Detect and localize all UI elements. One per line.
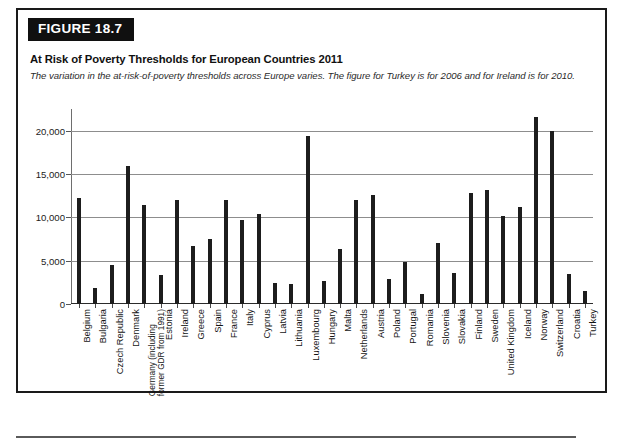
x-axis-tick-mark bbox=[291, 304, 292, 308]
bar bbox=[501, 216, 505, 304]
bar-slot bbox=[577, 109, 593, 304]
bar-slot bbox=[234, 109, 250, 304]
bar-slot bbox=[185, 109, 201, 304]
bar-slot bbox=[250, 109, 266, 304]
bar bbox=[142, 205, 146, 304]
bar-slot bbox=[299, 109, 315, 304]
x-axis-tick-mark bbox=[275, 304, 276, 308]
x-axis-tick-mark bbox=[259, 304, 260, 308]
bar bbox=[273, 283, 277, 304]
bar bbox=[534, 117, 538, 304]
x-axis-tick-label: Greece bbox=[197, 309, 207, 340]
bar-slot bbox=[87, 109, 103, 304]
bar bbox=[159, 275, 163, 304]
x-axis-tick-mark bbox=[438, 304, 439, 308]
bar-slot bbox=[120, 109, 136, 304]
bar bbox=[77, 198, 81, 304]
y-axis-tick-label: 10,000 bbox=[36, 212, 65, 223]
bar-slot bbox=[104, 109, 120, 304]
y-axis-tick-label: 5,000 bbox=[41, 255, 65, 266]
bar bbox=[289, 284, 293, 304]
bar bbox=[322, 281, 326, 304]
x-axis-tick-label: France bbox=[230, 309, 240, 338]
x-axis-tick-label: Estonia bbox=[165, 309, 175, 340]
chart-plot-wrapper: 05,00010,00015,00020,000 BelgiumBulgaria… bbox=[18, 10, 609, 395]
bar bbox=[191, 246, 195, 304]
x-axis-tick-mark bbox=[210, 304, 211, 308]
bar-slot bbox=[71, 109, 87, 304]
x-axis-tick-label: Spain bbox=[214, 309, 224, 333]
bar-slot bbox=[202, 109, 218, 304]
bar bbox=[583, 291, 587, 304]
x-axis-tick-mark bbox=[487, 304, 488, 308]
bar bbox=[257, 214, 261, 304]
bar bbox=[403, 262, 407, 304]
bar bbox=[110, 265, 114, 304]
bar-slot bbox=[560, 109, 576, 304]
bar-slot bbox=[348, 109, 364, 304]
x-axis-tick-label: Bulgaria bbox=[99, 309, 109, 343]
bar-slot bbox=[463, 109, 479, 304]
x-axis-tick-mark bbox=[356, 304, 357, 308]
x-axis-tick-mark bbox=[389, 304, 390, 308]
x-axis-tick-label: Croatia bbox=[573, 309, 583, 339]
bar bbox=[518, 207, 522, 304]
x-axis-tick-label: United Kingdom bbox=[507, 309, 517, 375]
bar bbox=[550, 131, 554, 304]
x-axis-tick-label: Luxembourg bbox=[312, 309, 322, 361]
x-axis-tick-label: Sweden bbox=[491, 309, 501, 343]
y-axis-tick-mark bbox=[66, 261, 71, 262]
x-axis-tick-label: Hungary bbox=[328, 309, 338, 344]
y-axis-tick-mark bbox=[66, 304, 71, 305]
bar bbox=[354, 200, 358, 304]
bar-slot bbox=[528, 109, 544, 304]
bar-slot bbox=[414, 109, 430, 304]
x-axis-tick-mark bbox=[454, 304, 455, 308]
x-axis-tick-mark bbox=[422, 304, 423, 308]
bar-slot bbox=[283, 109, 299, 304]
x-axis-tick-label: Netherlands bbox=[360, 309, 370, 359]
x-axis-tick-mark bbox=[471, 304, 472, 308]
bar-slot bbox=[153, 109, 169, 304]
page-bottom-rule bbox=[16, 436, 576, 438]
x-axis-tick-label: Norway bbox=[540, 309, 550, 341]
figure-frame: FIGURE 18.7 At Risk of Poverty Threshold… bbox=[16, 8, 607, 393]
x-axis-tick-label: Belgium bbox=[83, 309, 93, 343]
bar-slot bbox=[544, 109, 560, 304]
x-axis-tick-label: Latvia bbox=[279, 309, 289, 334]
bar-slot bbox=[430, 109, 446, 304]
bar-slot bbox=[511, 109, 527, 304]
bar-slot bbox=[267, 109, 283, 304]
x-axis-tick-mark bbox=[79, 304, 80, 308]
bar bbox=[485, 190, 489, 304]
x-axis-tick-mark bbox=[177, 304, 178, 308]
bar bbox=[567, 274, 571, 304]
bar-slot bbox=[316, 109, 332, 304]
x-axis-tick-mark bbox=[324, 304, 325, 308]
x-axis-tick-mark bbox=[405, 304, 406, 308]
x-axis-tick-mark bbox=[569, 304, 570, 308]
x-axis-tick-label: Austria bbox=[377, 309, 387, 338]
bar-slot bbox=[136, 109, 152, 304]
bar bbox=[371, 195, 375, 304]
y-axis-tick-label: 20,000 bbox=[36, 125, 65, 136]
bar-plot-area bbox=[71, 109, 593, 304]
x-axis-tick-label: Turkey bbox=[589, 309, 599, 337]
bar-slot bbox=[446, 109, 462, 304]
x-axis-tick-mark bbox=[520, 304, 521, 308]
x-axis-tick-mark bbox=[552, 304, 553, 308]
bar bbox=[420, 294, 424, 304]
y-axis-tick-mark bbox=[66, 217, 71, 218]
bar-slot bbox=[218, 109, 234, 304]
x-axis-tick-mark bbox=[95, 304, 96, 308]
x-axis-tick-mark bbox=[585, 304, 586, 308]
bar bbox=[436, 243, 440, 304]
bar-slot bbox=[381, 109, 397, 304]
x-axis-tick-label: Ireland bbox=[181, 309, 191, 337]
x-axis-tick-mark bbox=[503, 304, 504, 308]
x-axis-tick-mark bbox=[128, 304, 129, 308]
bar bbox=[93, 288, 97, 304]
bar bbox=[208, 239, 212, 304]
bar-slot bbox=[495, 109, 511, 304]
x-axis-tick-label: Czech Republic bbox=[116, 309, 126, 374]
